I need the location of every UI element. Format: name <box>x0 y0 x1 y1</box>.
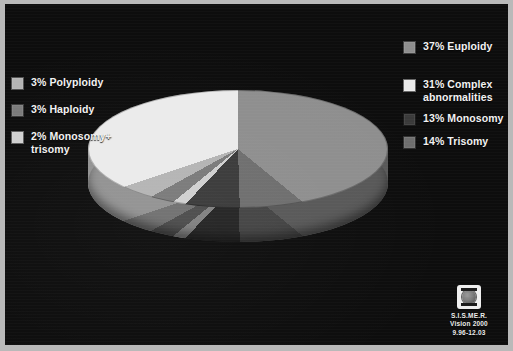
legend-swatch <box>11 77 24 90</box>
oocyte-dish-icon <box>457 285 481 309</box>
logo-date-range: 9.96-12.03 <box>438 329 500 338</box>
legend-swatch <box>403 41 416 54</box>
legend-item-label: 31% Complex abnormalities <box>423 78 493 103</box>
legend-left: 3% Polyploidy 3% Haploidy 2% Monosomy+ t… <box>11 76 151 168</box>
legend-item-label: 3% Haploidy <box>31 103 95 116</box>
legend-item[interactable]: 3% Haploidy <box>11 103 151 117</box>
legend-item[interactable]: 13% Monosomy <box>403 112 508 126</box>
sismer-logo-block: S.I.S.ME.R. Vision 2000 9.96-12.03 <box>438 285 500 338</box>
legend-swatch <box>403 79 416 92</box>
legend-item-label: 3% Polyploidy <box>31 76 103 89</box>
logo-bar-top <box>461 288 477 291</box>
slide-canvas: 3% Polyploidy 3% Haploidy 2% Monosomy+ t… <box>5 4 508 345</box>
legend-item[interactable]: 37% Euploidy <box>403 40 508 54</box>
logo-org-name: S.I.S.ME.R. <box>438 312 500 321</box>
legend-item[interactable]: 2% Monosomy+ trisomy <box>11 130 151 155</box>
logo-bar-bottom <box>461 303 477 306</box>
legend-swatch <box>403 113 416 126</box>
legend-item-label: 2% Monosomy+ trisomy <box>31 130 112 155</box>
legend-item-label: 14% Trisomy <box>423 135 488 148</box>
legend-item-label: 13% Monosomy <box>423 112 504 125</box>
legend-item[interactable]: 31% Complex abnormalities <box>403 78 508 103</box>
logo-cell-shape <box>462 290 476 304</box>
legend-swatch <box>11 104 24 117</box>
legend-item[interactable]: 14% Trisomy <box>403 135 508 149</box>
legend-right: 37% Euploidy 31% Complex abnormalities 1… <box>403 40 508 158</box>
legend-swatch <box>403 136 416 149</box>
legend-item[interactable]: 3% Polyploidy <box>11 76 151 90</box>
legend-swatch <box>11 131 24 144</box>
legend-item-label: 37% Euploidy <box>423 40 492 53</box>
slide-frame: 3% Polyploidy 3% Haploidy 2% Monosomy+ t… <box>0 0 513 351</box>
logo-product-name: Vision 2000 <box>438 320 500 329</box>
